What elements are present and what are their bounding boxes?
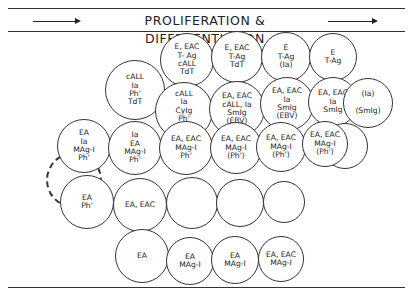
header: PROLIFERATION & DIFFERENTIATION [0,12,413,30]
cell-circle: E T-Ag (Ia) [261,32,311,82]
cell-circle: EA [115,229,169,283]
cell-marker-label: EA, EAC MAg-I Ph' [171,135,201,160]
cell-circle [216,179,264,227]
cell-marker-label: Ia EA MAg-I Ph' [124,131,146,165]
cell-circle: EA, EAC MAg-I (Ph') [256,122,306,172]
bottom-rule [8,287,405,288]
cell-marker-label: EA [137,252,147,260]
cell-circle: EA MAg-I [211,236,259,284]
cell-marker-label: EA, EAC MAg-I (Ph') [310,131,340,156]
cell-marker-label: (Ia) (SmIg) [355,90,380,115]
cell-marker-label: EA, EAC MAg-I (Ph') [221,135,251,160]
cell-circle: (Ia) (SmIg) [343,78,393,128]
cell-marker-label: EA Ia MAg-I Ph' [73,129,95,163]
header-rule [8,31,405,32]
cell-marker-label: EA, EAC [125,201,155,209]
cell-marker-label: E T-Ag [325,49,342,66]
cell-circle: EA, EAC MAg-I (Ph') [210,122,262,174]
cell-marker-label: EA, EAC MAg-I (Ph') [266,134,296,159]
top-rule [8,8,405,9]
cell-circle: EA Ia MAg-I Ph' [57,119,111,173]
arrow-right-icon [328,21,376,22]
cell-marker-label: EA Ph' [81,194,92,211]
arrow-right-icon [33,21,79,22]
cell-circle: EA, EAC MAg-I [258,236,304,282]
cell-marker-label: E, EAC T- Ag cALL TdT [175,43,200,77]
cell-marker-label: EA, EAC MAg-I [266,251,296,268]
cell-circle: Ia EA MAg-I Ph' [108,121,162,175]
cell-marker-label: E, EAC T-Ag TdT [225,44,250,69]
cell-marker-label: E T-Ag (Ia) [278,44,295,69]
cell-marker-label: cALL Ia Ph' TdT [126,73,144,107]
cell-marker-label: EA MAg-I [179,253,201,270]
cell-circle: EA, EAC MAg-I Ph' [159,121,213,175]
cell-circle: EA MAg-I [166,237,214,285]
cell-circle: E, EAC T-Ag TdT [211,31,263,83]
cell-marker-label: EA, EAC cALL, Ia SmIg (EBV) [222,92,252,126]
cell-circle: EA, EAC MAg-I (Ph') [302,121,348,167]
cell-circle: EA, EAC [113,178,167,232]
cell-circle: E, EAC T- Ag cALL TdT [160,33,214,87]
cell-marker-label: EA MAg-I [224,252,246,269]
cell-circle [166,177,218,229]
cell-circle: E T-Ag [309,33,357,81]
cell-marker-label: EA, EAC Ia SmIg (EBV) [272,87,302,121]
cell-circle: EA Ph' [60,175,114,229]
cell-circle [263,181,305,223]
